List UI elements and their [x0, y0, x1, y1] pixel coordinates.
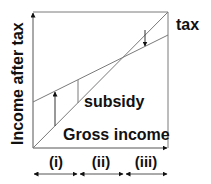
tax-label: tax: [176, 16, 199, 33]
subsidy-label: subsidy: [84, 93, 145, 110]
gross-income-label: Gross income: [63, 126, 170, 143]
region-iii-label: (iii): [135, 153, 158, 170]
y-axis-label: Income after tax: [9, 22, 26, 145]
region-ii-label: (ii): [92, 153, 110, 170]
after-tax-line: [33, 35, 168, 102]
region-i-label: (i): [49, 153, 63, 170]
income-tax-diagram: tax subsidy Gross income Income after ta…: [0, 0, 211, 184]
